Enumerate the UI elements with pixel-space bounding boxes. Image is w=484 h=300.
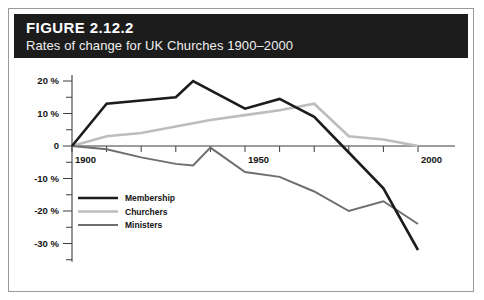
y-axis-tick-label: 10 %: [37, 108, 59, 119]
figure-subtitle: Rates of change for UK Churches 1900–200…: [26, 37, 468, 55]
series-line-churchers: [72, 104, 418, 146]
figure-label: FIGURE 2.12.2: [26, 18, 468, 37]
plot-area: 20 %10 %0-10 %-20 %-30 %190019502000Memb…: [0, 58, 484, 292]
y-axis-tick-label: 0: [54, 140, 59, 151]
legend-label-ministers: Ministers: [125, 220, 163, 230]
y-axis-tick-label: 20 %: [37, 75, 59, 86]
y-axis-tick-label: -20 %: [34, 205, 59, 216]
x-axis-tick-label: 2000: [421, 154, 442, 165]
figure-title-bar: FIGURE 2.12.2 Rates of change for UK Chu…: [14, 14, 468, 58]
series-line-ministers: [72, 146, 418, 224]
legend-label-churchers: Churchers: [125, 207, 168, 217]
series-line-membership: [72, 81, 418, 250]
x-axis-tick-label: 1900: [75, 154, 96, 165]
y-axis-tick-label: -10 %: [34, 173, 59, 184]
legend-label-membership: Membership: [125, 193, 175, 203]
x-axis-tick-label: 1950: [248, 154, 269, 165]
y-axis-tick-label: -30 %: [34, 238, 59, 249]
figure-container: FIGURE 2.12.2 Rates of change for UK Chu…: [0, 0, 484, 300]
line-chart: 20 %10 %0-10 %-20 %-30 %190019502000Memb…: [0, 58, 484, 292]
